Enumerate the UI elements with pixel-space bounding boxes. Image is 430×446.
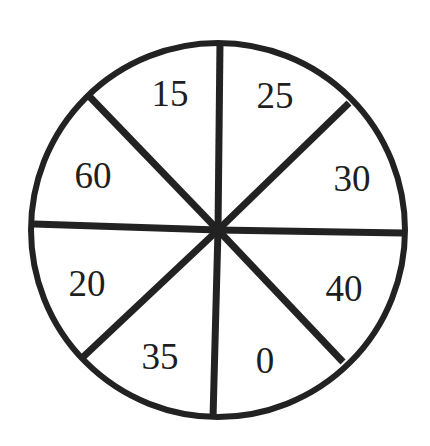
sector-label-60: 60 — [75, 155, 112, 196]
divider-right — [218, 230, 403, 233]
sector-label-40: 40 — [326, 268, 363, 309]
sector-label-35: 35 — [142, 336, 179, 377]
spinner-diagram: 15 25 30 40 0 35 20 60 — [0, 0, 430, 446]
sector-label-25: 25 — [257, 75, 294, 116]
sector-label-0: 0 — [256, 340, 275, 381]
spinner-wheel: 15 25 30 40 0 35 20 60 — [0, 0, 430, 446]
divider-bottom — [213, 230, 218, 418]
spinner-hub — [212, 224, 224, 236]
sector-label-20: 20 — [69, 263, 106, 304]
divider-top — [218, 42, 220, 230]
sector-label-30: 30 — [334, 158, 371, 199]
sector-label-15: 15 — [152, 73, 189, 114]
